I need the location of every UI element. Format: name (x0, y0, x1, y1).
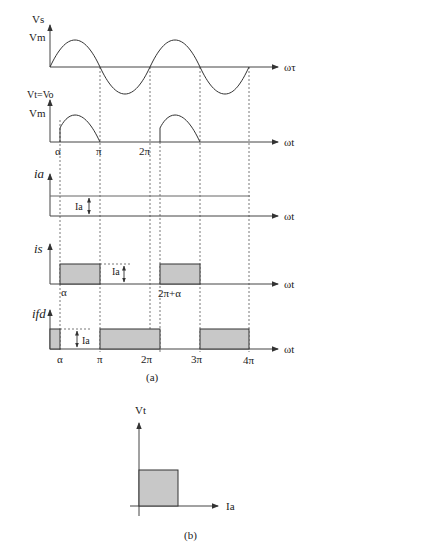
is-level-label: Ia (112, 266, 120, 277)
x-axis-label: ωt (284, 210, 294, 222)
guide-lines (60, 67, 249, 352)
tick-alpha: α (57, 353, 63, 365)
operating-region (139, 470, 178, 506)
x-axis-label: ωt (284, 278, 294, 290)
tick-alpha: α (55, 145, 61, 157)
source-current-pulse-2 (160, 264, 200, 284)
source-current-pulse-1 (60, 264, 100, 284)
panel-ia: ia Ia ωt (34, 166, 294, 222)
output-voltage-segment-1 (60, 115, 100, 142)
vt-label: Vt=Vo (27, 89, 54, 100)
vs-label: Vs (32, 13, 44, 25)
tick-alpha: α (61, 286, 67, 298)
tick-2pi: 2π (141, 353, 153, 365)
tick-3pi: 3π (191, 353, 203, 365)
ifd-label: ifd (32, 306, 46, 321)
freewheel-current-pulse-1 (50, 329, 60, 349)
converter-waveform-diagram: Vs Vm ωτ Vt=Vo Vm ωt α π 2π ia Ia ωt is (0, 0, 427, 553)
caption-a: (a) (146, 371, 159, 384)
x-axis-label: ωt (284, 136, 294, 148)
ia-level-label: Ia (75, 201, 83, 212)
vm-label: Vm (29, 31, 46, 43)
panel-ifd: ifd Ia ωt α π 2π 3π 4π (32, 306, 294, 366)
output-voltage-segment-2 (160, 115, 200, 142)
panel-is: is Ia ωt α 2π+α (34, 241, 294, 299)
caption-b: (b) (184, 529, 197, 542)
tick-pi: π (97, 353, 103, 365)
panel-vs: Vs Vm ωτ (29, 13, 296, 94)
vt-axis-label: Vt (135, 404, 146, 416)
freewheel-current-pulse-3 (200, 329, 249, 349)
ifd-level-label: Ia (82, 335, 90, 346)
x-axis-label: ωτ (284, 61, 296, 73)
vm-label: Vm (29, 107, 46, 119)
panel-vt: Vt=Vo Vm ωt α π 2π (27, 89, 294, 157)
tick-2pi: 2π (139, 145, 151, 157)
ia-axis-label: Ia (226, 500, 235, 512)
tick-4pi: 4π (243, 354, 255, 366)
tick-2pi-plus-alpha: 2π+α (158, 287, 181, 299)
x-axis-label: ωt (284, 343, 294, 355)
tick-pi: π (96, 145, 102, 157)
panel-b-quadrant: Vt Ia (130, 404, 235, 516)
ia-label: ia (34, 166, 45, 181)
freewheel-current-pulse-2 (100, 329, 160, 349)
is-label: is (34, 241, 43, 256)
